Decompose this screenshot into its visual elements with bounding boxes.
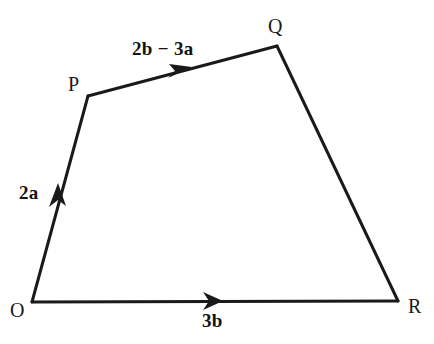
vertex-label-o: O — [10, 300, 24, 320]
vector-diagram-figure: O P Q R 2a 2b − 3a 3b — [0, 0, 434, 344]
vector-diagram-canvas — [0, 0, 434, 344]
edge-qr-line — [277, 46, 398, 301]
vector-label-or: 3b — [202, 311, 223, 330]
vector-label-pq: 2b − 3a — [132, 39, 194, 58]
vertex-label-q: Q — [268, 16, 282, 36]
vertex-label-p: P — [68, 74, 79, 94]
vertex-label-r: R — [408, 296, 421, 316]
vector-label-op: 2a — [19, 183, 39, 202]
edge-pq-arrowhead — [168, 64, 192, 78]
